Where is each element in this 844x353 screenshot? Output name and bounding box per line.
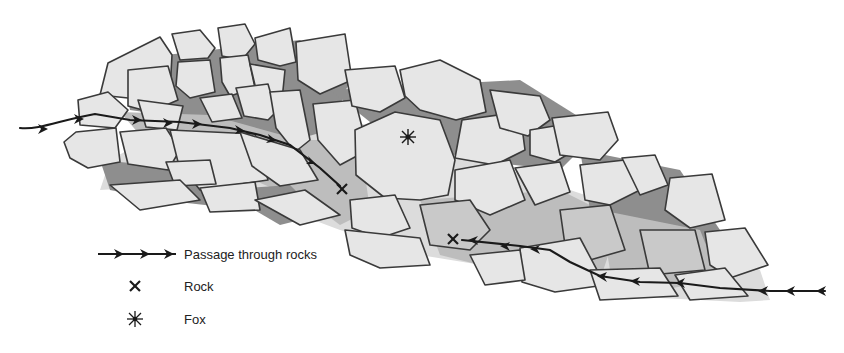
- legend-label-passage: Passage through rocks: [184, 247, 317, 262]
- rock-passage-diagram: [0, 0, 844, 353]
- legend-label-fox: Fox: [184, 312, 206, 327]
- x-mark-icon: [96, 275, 176, 297]
- arrow-path-icon: [96, 243, 176, 265]
- asterisk-icon: [96, 308, 176, 330]
- legend-item-rock: Rock: [96, 275, 176, 297]
- legend-label-rock: Rock: [184, 279, 214, 294]
- legend-item-passage: Passage through rocks: [96, 243, 176, 265]
- fox-marker: [400, 129, 416, 145]
- legend-item-fox: Fox: [96, 308, 176, 330]
